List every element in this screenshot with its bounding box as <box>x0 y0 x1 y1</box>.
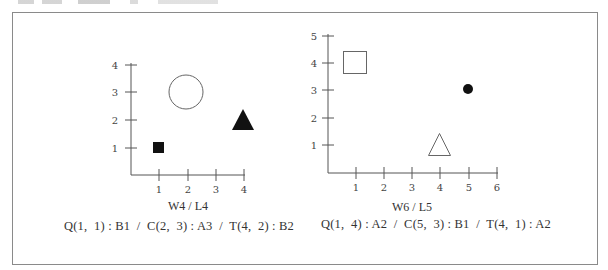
right-x-tick-6: 6 <box>494 182 500 193</box>
right-x-tick-3: 3 <box>409 182 415 193</box>
right-y-tick-2: 2 <box>311 113 317 124</box>
open-triangle-shape <box>429 134 451 156</box>
right-plot: 1 2 3 4 5 1 2 3 4 5 6 W6 / L5 <box>311 31 500 214</box>
right-x-tick-5: 5 <box>466 182 472 193</box>
left-y-tick-4: 4 <box>112 60 118 71</box>
right-y-tick-5: 5 <box>311 31 317 42</box>
filled-square-shape <box>153 142 164 153</box>
right-caption: Q(1, 4) : A2 / C(5, 3) : B1 / T(4, 1) : … <box>321 217 551 232</box>
left-y-tick-2: 2 <box>112 115 118 126</box>
left-x-tick-3: 3 <box>213 184 219 195</box>
right-y-tick-1: 1 <box>311 140 317 151</box>
left-x-tick-2: 2 <box>185 184 191 195</box>
right-y-tick-3: 3 <box>311 85 317 96</box>
left-x-tick-1: 1 <box>156 184 162 195</box>
right-x-tick-2: 2 <box>381 182 387 193</box>
left-y-tick-1: 1 <box>112 143 118 154</box>
right-x-tick-4: 4 <box>437 182 443 193</box>
left-plot-title: W4 / L4 <box>168 199 208 213</box>
left-y-tick-3: 3 <box>112 87 118 98</box>
open-circle-shape <box>169 75 203 109</box>
open-square-shape <box>344 52 367 74</box>
filled-circle-shape <box>463 84 473 94</box>
right-x-tick-1: 1 <box>353 182 359 193</box>
right-plot-title: W6 / L5 <box>392 200 432 214</box>
right-y-tick-4: 4 <box>311 58 317 69</box>
left-caption: Q(1, 1) : B1 / C(2, 3) : A3 / T(4, 2) : … <box>64 219 294 234</box>
left-x-tick-4: 4 <box>241 184 247 195</box>
left-plot: 1 2 3 4 1 2 3 4 W4 / L4 <box>112 60 254 213</box>
filled-triangle-shape <box>232 109 254 130</box>
